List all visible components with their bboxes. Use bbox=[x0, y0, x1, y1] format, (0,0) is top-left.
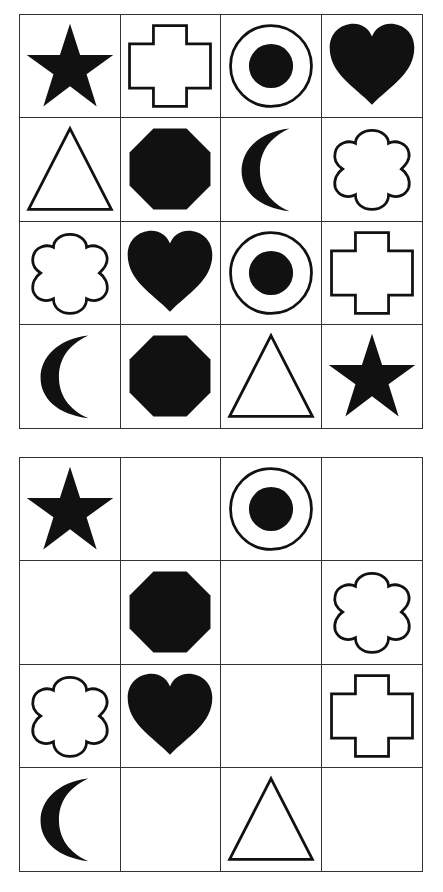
answer-cell-r1c2[interactable] bbox=[121, 458, 222, 561]
answer-cell-r1c1 bbox=[20, 458, 121, 561]
star-icon bbox=[24, 463, 116, 555]
flower-icon bbox=[326, 566, 418, 658]
flower-icon bbox=[24, 670, 116, 762]
moon-icon bbox=[225, 123, 317, 215]
reference-cell-r3c2 bbox=[121, 222, 222, 325]
star-icon bbox=[24, 20, 116, 112]
answer-cell-r2c1[interactable] bbox=[20, 561, 121, 664]
reference-cell-r3c3 bbox=[221, 222, 322, 325]
reference-cell-r2c4 bbox=[322, 118, 423, 221]
answer-cell-r3c1 bbox=[20, 665, 121, 768]
answer-cell-r1c4[interactable] bbox=[322, 458, 423, 561]
heart-icon bbox=[326, 20, 418, 112]
target-icon bbox=[225, 463, 317, 555]
octagon-icon bbox=[124, 330, 216, 422]
reference-cell-r4c1 bbox=[20, 325, 121, 428]
flower-icon bbox=[24, 227, 116, 319]
cross-icon bbox=[326, 227, 418, 319]
answer-cell-r3c4 bbox=[322, 665, 423, 768]
answer-cell-r2c4 bbox=[322, 561, 423, 664]
target-icon bbox=[225, 227, 317, 319]
heart-icon bbox=[124, 227, 216, 319]
answer-cell-r4c3 bbox=[221, 768, 322, 871]
reference-cell-r1c2 bbox=[121, 15, 222, 118]
reference-cell-r2c3 bbox=[221, 118, 322, 221]
reference-cell-r3c4 bbox=[322, 222, 423, 325]
moon-icon bbox=[24, 330, 116, 422]
reference-cell-r2c1 bbox=[20, 118, 121, 221]
cross-icon bbox=[326, 670, 418, 762]
triangle-icon bbox=[225, 330, 317, 422]
reference-grid bbox=[19, 14, 423, 429]
reference-cell-r4c4 bbox=[322, 325, 423, 428]
answer-cell-r3c3[interactable] bbox=[221, 665, 322, 768]
reference-cell-r3c1 bbox=[20, 222, 121, 325]
triangle-icon bbox=[24, 123, 116, 215]
answer-cell-r1c3 bbox=[221, 458, 322, 561]
answer-cell-r4c4[interactable] bbox=[322, 768, 423, 871]
answer-cell-r2c3[interactable] bbox=[221, 561, 322, 664]
answer-cell-r3c2 bbox=[121, 665, 222, 768]
answer-cell-r2c2 bbox=[121, 561, 222, 664]
reference-cell-r4c2 bbox=[121, 325, 222, 428]
answer-grid bbox=[19, 457, 423, 872]
octagon-icon bbox=[124, 566, 216, 658]
target-icon bbox=[225, 20, 317, 112]
reference-cell-r4c3 bbox=[221, 325, 322, 428]
answer-cell-r4c2[interactable] bbox=[121, 768, 222, 871]
reference-cell-r1c1 bbox=[20, 15, 121, 118]
octagon-icon bbox=[124, 123, 216, 215]
reference-cell-r1c4 bbox=[322, 15, 423, 118]
triangle-icon bbox=[225, 773, 317, 865]
star-icon bbox=[326, 330, 418, 422]
moon-icon bbox=[24, 773, 116, 865]
reference-cell-r2c2 bbox=[121, 118, 222, 221]
heart-icon bbox=[124, 670, 216, 762]
flower-icon bbox=[326, 123, 418, 215]
cross-icon bbox=[124, 20, 216, 112]
answer-cell-r4c1 bbox=[20, 768, 121, 871]
reference-cell-r1c3 bbox=[221, 15, 322, 118]
